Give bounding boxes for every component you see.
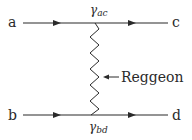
arrowhead-icon bbox=[128, 20, 136, 26]
coupling-ac-label: γac bbox=[90, 3, 108, 18]
arrowhead-left-icon bbox=[103, 75, 109, 80]
particle-a-label: a bbox=[8, 14, 16, 30]
reggeon-label: Reggeon bbox=[121, 69, 183, 85]
reggeon-diagram: a c b d γac γbd Reggeon bbox=[0, 0, 192, 140]
coupling-bd-label: γbd bbox=[89, 120, 108, 135]
arrowhead-icon bbox=[128, 112, 136, 118]
particle-c-label: c bbox=[172, 14, 180, 30]
reggeon-zigzag bbox=[90, 23, 99, 115]
coupling-ac-subscript: ac bbox=[97, 8, 107, 18]
arrowhead-icon bbox=[53, 112, 61, 118]
coupling-bd-subscript: bd bbox=[96, 125, 108, 135]
lower-line bbox=[23, 112, 168, 118]
particle-d-label: d bbox=[172, 107, 181, 123]
reggeon-pointer bbox=[103, 75, 119, 80]
arrowhead-icon bbox=[53, 20, 61, 26]
particle-b-label: b bbox=[8, 107, 17, 123]
